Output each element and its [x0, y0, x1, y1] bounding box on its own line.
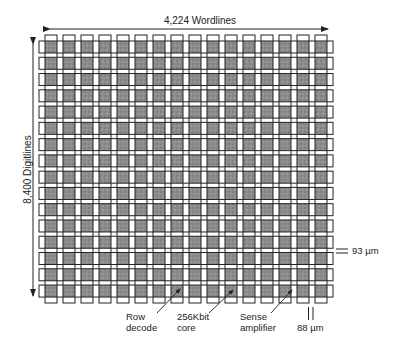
core-cell [315, 220, 327, 232]
core-cell [297, 253, 309, 265]
core-cell [243, 41, 255, 53]
core-cell [45, 41, 57, 53]
core-cell [63, 139, 75, 151]
core-cell [261, 41, 273, 53]
core-cell [315, 236, 327, 248]
core-cell [153, 41, 165, 53]
core-cell [297, 204, 309, 216]
core-cell [135, 285, 147, 297]
core-cell [81, 187, 93, 199]
core-cell [81, 269, 93, 281]
core-cell [45, 171, 57, 183]
core-cell [99, 41, 111, 53]
core-cell [81, 204, 93, 216]
core-cell [153, 285, 165, 297]
core-cell [243, 204, 255, 216]
core-cell [189, 187, 201, 199]
core-cell [243, 220, 255, 232]
core-cell [225, 204, 237, 216]
core-line1: 256Kbit [177, 311, 209, 322]
core-cell [279, 106, 291, 118]
core-cell [225, 187, 237, 199]
core-cell [117, 236, 129, 248]
core-cell [117, 74, 129, 86]
core-cell [207, 139, 219, 151]
core-cell [81, 74, 93, 86]
core-cell [261, 204, 273, 216]
core-cell [63, 122, 75, 134]
core-cell [63, 90, 75, 102]
core-cell [171, 90, 183, 102]
core-cell [153, 187, 165, 199]
core-cell [45, 90, 57, 102]
core-cell [243, 269, 255, 281]
core-cell [99, 187, 111, 199]
core-cell [315, 285, 327, 297]
core-cell [171, 41, 183, 53]
core-cell [189, 41, 201, 53]
core-cell [189, 90, 201, 102]
core-cell [171, 122, 183, 134]
core-cell [45, 236, 57, 248]
core-cell [99, 139, 111, 151]
core-cell [171, 269, 183, 281]
core-cell [63, 106, 75, 118]
core-cell [171, 155, 183, 167]
core-cell [279, 236, 291, 248]
core-cell [225, 171, 237, 183]
core-cell [171, 74, 183, 86]
core-cell [81, 253, 93, 265]
core-cell [207, 155, 219, 167]
core-cell [81, 57, 93, 69]
core-cell [171, 139, 183, 151]
core-cell [315, 171, 327, 183]
core-cell [279, 269, 291, 281]
core-cell [207, 204, 219, 216]
core-cell [315, 106, 327, 118]
core-cell [135, 90, 147, 102]
core-cell [297, 187, 309, 199]
core-cell [189, 285, 201, 297]
core-cell [207, 41, 219, 53]
core-cell [297, 74, 309, 86]
core-cell [99, 122, 111, 134]
core-cell [135, 253, 147, 265]
core-cell [297, 41, 309, 53]
core-cell [153, 57, 165, 69]
core-cell [297, 285, 309, 297]
core-cell [117, 41, 129, 53]
core-cell [297, 171, 309, 183]
core-cell [243, 122, 255, 134]
core-cell [135, 155, 147, 167]
core-cell [99, 269, 111, 281]
core-cell [153, 171, 165, 183]
core-cell [99, 285, 111, 297]
core-cell [243, 90, 255, 102]
core-cell [261, 155, 273, 167]
core-cell [99, 57, 111, 69]
dram-array-floorplan: 4,224 Wordlines 8,400 Digitlines Row dec… [0, 0, 396, 351]
core-cell [189, 106, 201, 118]
core-cell [225, 57, 237, 69]
core-cell [207, 269, 219, 281]
core-cell [261, 253, 273, 265]
core-cell [189, 139, 201, 151]
core-cell [45, 57, 57, 69]
core-cell [171, 187, 183, 199]
core-cell [81, 90, 93, 102]
core-cell [207, 285, 219, 297]
core-cell [297, 122, 309, 134]
core-cell [279, 90, 291, 102]
core-cell [45, 204, 57, 216]
core-cell [261, 90, 273, 102]
core-cell [117, 220, 129, 232]
core-cell [63, 236, 75, 248]
core-cell [207, 220, 219, 232]
core-cell [45, 269, 57, 281]
core-cell [117, 122, 129, 134]
core-cell [135, 236, 147, 248]
core-cell [45, 220, 57, 232]
core-cell [279, 139, 291, 151]
core-cell [207, 236, 219, 248]
core-cell [45, 106, 57, 118]
